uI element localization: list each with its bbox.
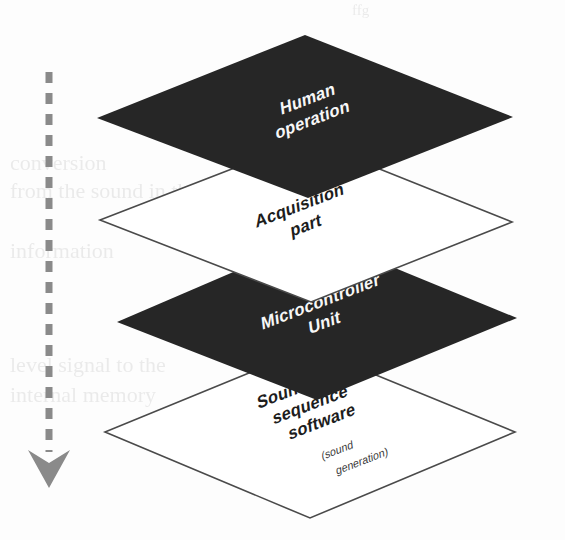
isometric-stage: Sound sequence software (sound generatio… — [0, 0, 565, 540]
diagram-canvas: ffg conversion from the sound in the dat… — [0, 0, 565, 540]
layer-human-operation[interactable]: Human operation — [97, 35, 513, 198]
downward-flow-arrow — [28, 72, 70, 488]
flow-arrow-head-icon — [28, 450, 70, 488]
